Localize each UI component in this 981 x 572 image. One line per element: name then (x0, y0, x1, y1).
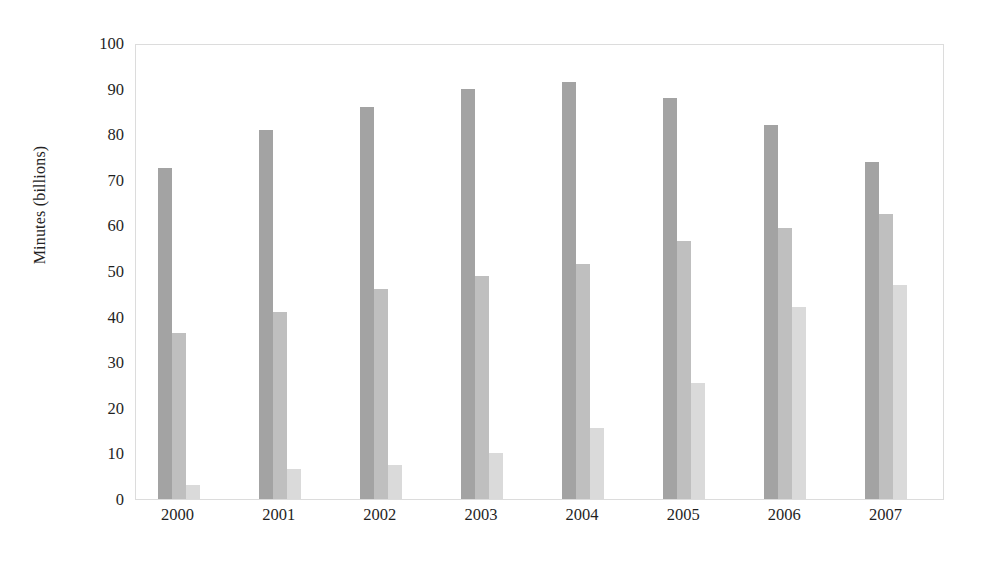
x-tick-label: 2005 (667, 505, 700, 525)
bar[interactable] (663, 98, 677, 499)
y-tick-label: 70 (108, 173, 125, 190)
bar[interactable] (590, 428, 604, 499)
y-tick-label: 50 (108, 264, 125, 281)
bar[interactable] (562, 82, 576, 499)
bar[interactable] (865, 162, 879, 499)
bar[interactable] (158, 168, 172, 499)
x-axis-tick-labels: 20002001200220032004200520062007 (135, 505, 944, 535)
y-tick-label: 60 (108, 218, 125, 235)
x-tick-label: 2002 (363, 505, 396, 525)
x-tick-label: 2006 (768, 505, 801, 525)
bar[interactable] (259, 130, 273, 499)
bar-group (562, 45, 604, 499)
bar-group (158, 45, 200, 499)
x-tick-label: 2001 (262, 505, 295, 525)
x-tick-label: 2000 (161, 505, 194, 525)
bar[interactable] (287, 469, 301, 499)
bar[interactable] (778, 228, 792, 499)
bar-group (764, 45, 806, 499)
bar[interactable] (273, 312, 287, 499)
bar[interactable] (172, 333, 186, 499)
y-tick-label: 100 (99, 36, 124, 53)
bar-chart-figure: Minutes (billions) 010203040506070809010… (0, 0, 981, 572)
y-axis-tick-labels: 0102030405060708090100 (60, 44, 124, 500)
bar[interactable] (893, 285, 907, 499)
y-tick-label: 40 (108, 309, 125, 326)
bar[interactable] (475, 276, 489, 499)
y-axis-title: Minutes (billions) (31, 105, 49, 305)
x-tick-label: 2003 (464, 505, 497, 525)
y-tick-label: 0 (116, 492, 124, 509)
y-tick-label: 80 (108, 127, 125, 144)
y-tick-label: 10 (108, 446, 125, 463)
bar-group (865, 45, 907, 499)
bar[interactable] (792, 307, 806, 499)
bar[interactable] (576, 264, 590, 499)
bar[interactable] (186, 485, 200, 499)
bar[interactable] (677, 241, 691, 499)
bar[interactable] (360, 107, 374, 499)
scan-bleedthrough-artifact (0, 538, 981, 568)
x-tick-label: 2004 (566, 505, 599, 525)
bar[interactable] (374, 289, 388, 499)
x-tick-label: 2007 (869, 505, 902, 525)
y-tick-label: 30 (108, 355, 125, 372)
bar-group (259, 45, 301, 499)
bar[interactable] (879, 214, 893, 499)
y-tick-label: 90 (108, 81, 125, 98)
bar-group (360, 45, 402, 499)
bar[interactable] (691, 383, 705, 499)
plot-area (135, 44, 944, 500)
bar[interactable] (461, 89, 475, 499)
plot-bars-container (136, 45, 943, 499)
bar-group (663, 45, 705, 499)
bar[interactable] (388, 465, 402, 499)
bar[interactable] (764, 125, 778, 499)
y-tick-label: 20 (108, 401, 125, 418)
bar[interactable] (489, 453, 503, 499)
bar-group (461, 45, 503, 499)
